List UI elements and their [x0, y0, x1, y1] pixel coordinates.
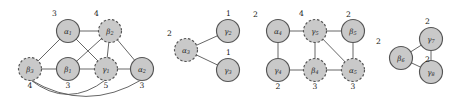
edge-layer — [30, 31, 142, 96]
graph-edge — [322, 38, 346, 63]
graph-edge — [75, 38, 99, 62]
graph-node[interactable]: α53 — [342, 59, 365, 92]
graph-node[interactable]: γ42 — [267, 59, 290, 92]
graph-collection-figure: α13β24β34β13γ15α23α32γ21γ31α42γ54β52γ42β… — [0, 0, 471, 107]
node-weight-label: 1 — [226, 48, 231, 57]
node-weight-label: 3 — [351, 82, 356, 91]
graph: α32γ21γ31 — [167, 9, 239, 82]
node-weight-label: 3 — [52, 9, 57, 18]
graph-node[interactable]: α23 — [131, 58, 154, 91]
node-weight-label: 3 — [313, 82, 318, 91]
graph-node[interactable]: α32 — [167, 29, 197, 62]
graph-node[interactable]: β62 — [376, 37, 412, 70]
graph-node[interactable]: γ21 — [217, 9, 240, 43]
graph-edge — [75, 38, 102, 63]
graph-node[interactable]: β13 — [57, 58, 80, 91]
node-weight-label: 4 — [94, 9, 99, 18]
graph-node[interactable]: β24 — [94, 9, 121, 43]
graph-edge-curved — [30, 80, 142, 97]
node-weight-label: 4 — [28, 81, 33, 90]
graph: β62γ72γ82 — [376, 17, 442, 84]
node-weight-label: 4 — [299, 9, 304, 18]
graph-node[interactable]: α42 — [253, 10, 289, 43]
graph-edge — [195, 35, 219, 46]
graph-edge — [409, 44, 422, 52]
graph-node[interactable]: γ31 — [217, 48, 240, 82]
graph-node[interactable]: β43 — [304, 59, 327, 92]
graph-node[interactable]: γ72 — [420, 17, 443, 51]
node-weight-label: 2 — [425, 55, 430, 64]
graph-edge — [107, 41, 109, 59]
node-weight-label: 2 — [425, 17, 430, 26]
graph-node[interactable]: α13 — [52, 9, 79, 43]
graph: α42γ54β52γ42β43α53 — [253, 9, 364, 91]
node-weight-label: 2 — [253, 10, 258, 19]
graph: α13β24β34β13γ15α23 — [19, 9, 154, 96]
graph-canvas: α13β24β34β13γ15α23α32γ21γ31α42γ54β52γ42β… — [0, 0, 471, 107]
graph-node[interactable]: β52 — [342, 10, 365, 43]
graph-edge — [116, 39, 135, 62]
node-weight-label: 1 — [226, 9, 231, 18]
node-weight-label: 2 — [167, 29, 172, 38]
graph-edge — [195, 54, 219, 65]
node-weight-label: 2 — [376, 37, 381, 46]
node-weight-label: 5 — [104, 81, 109, 90]
node-weight-label: 2 — [276, 82, 281, 91]
node-weight-label: 3 — [66, 81, 71, 90]
graph-node[interactable]: γ54 — [299, 9, 326, 43]
node-weight-label: 3 — [140, 81, 145, 90]
node-weight-label: 2 — [346, 10, 351, 19]
graph-edge — [37, 38, 61, 62]
edge-layer — [195, 35, 219, 66]
